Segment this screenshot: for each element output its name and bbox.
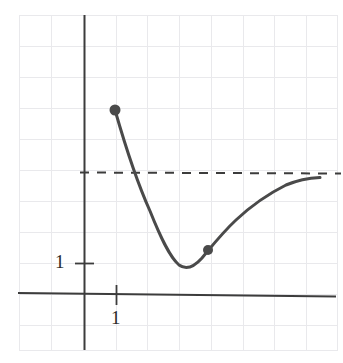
x-axis-tick-label: 1	[111, 308, 121, 327]
dashed-asymptote-line	[80, 173, 341, 174]
function-curve	[115, 110, 320, 267]
y-axis-tick-label: 1	[55, 252, 65, 271]
right-marked-point-dot	[203, 245, 213, 255]
left-endpoint-dot	[110, 105, 121, 116]
plot-canvas	[0, 0, 343, 363]
graph-figure: 1 1	[0, 0, 343, 363]
